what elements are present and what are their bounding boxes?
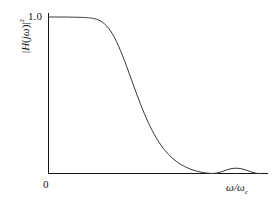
x-label-omega-denominator: ω: [237, 181, 245, 193]
y-label-paren-close: ): [19, 25, 31, 29]
x-axis-label: ω/ωc: [226, 182, 248, 193]
y-label-H: H: [19, 43, 31, 51]
y-label-j: j: [19, 36, 31, 39]
y-label-open-bar: |: [19, 51, 31, 53]
y-label-paren-open: (: [19, 39, 31, 43]
y-label-omega: ω: [19, 28, 31, 36]
plot-canvas: [0, 0, 272, 203]
x-label-omega-numerator: ω: [226, 181, 234, 193]
x-label-subscript-c: c: [245, 188, 248, 196]
y-label-exponent: 2: [18, 19, 26, 23]
y-label-close-bar: |: [19, 22, 31, 24]
y-tick-label-1: 1.0: [28, 11, 42, 22]
magnitude-response-curve: [49, 17, 261, 174]
filter-response-figure: |H(jω)|2 1.0 0 ω/ωc: [0, 0, 272, 203]
origin-tick-label: 0: [43, 179, 49, 190]
